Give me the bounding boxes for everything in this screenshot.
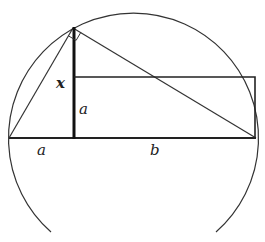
label-a-vertical: a [79,100,88,118]
label-a-horizontal: a [37,141,46,159]
label-x: x [55,74,66,92]
label-b: b [150,141,160,159]
circle-arc [9,13,259,232]
diagram-canvas: x a a b [0,0,265,242]
rectangle-a-by-b [74,77,255,138]
right-chord [73,28,256,138]
